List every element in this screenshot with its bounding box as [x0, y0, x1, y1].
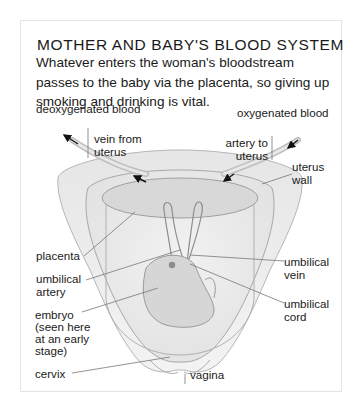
label-umbilical-artery-line1: umbilical: [36, 272, 81, 285]
label-umbilical-vein-line2: vein: [284, 268, 305, 281]
label-artery-to-uterus-line1: artery to: [220, 136, 268, 149]
placenta-shape: [102, 178, 258, 218]
label-umbilical-artery-line2: artery: [36, 285, 66, 298]
label-oxygenated-blood: oxygenated blood: [237, 106, 329, 119]
label-cervix: cervix: [35, 367, 65, 380]
label-vein-from-uterus-line1: vein from: [94, 132, 142, 145]
label-embryo-line4: stage): [35, 344, 67, 357]
label-uterus-wall-line1: uterus: [292, 160, 324, 173]
label-placenta: placenta: [36, 249, 80, 262]
label-umbilical-cord-line2: cord: [284, 310, 307, 323]
label-deoxygenated-blood: deoxygenated blood: [36, 102, 140, 115]
label-uterus-wall-line2: wall: [292, 173, 312, 186]
label-vagina: vagina: [190, 368, 224, 381]
label-umbilical-vein-line1: umbilical: [284, 255, 329, 268]
label-artery-to-uterus-line2: uterus: [220, 149, 268, 162]
label-vein-from-uterus-line2: uterus: [94, 145, 126, 158]
page-title: MOTHER AND BABY'S BLOOD SYSTEM: [37, 36, 344, 54]
label-umbilical-cord-line1: umbilical: [284, 297, 329, 310]
